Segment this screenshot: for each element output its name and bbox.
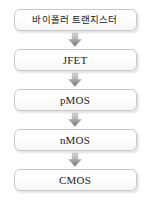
flow-node-label: 바이폴러 트랜지스터 — [32, 15, 117, 25]
flow-node-cmos[interactable]: CMOS — [14, 169, 137, 191]
flow-node-label: nMOS — [60, 135, 90, 146]
flow-node-pmos[interactable]: pMOS — [14, 89, 137, 111]
flow-connector-1 — [0, 31, 150, 49]
flow-node-bipolar-transistor[interactable]: 바이폴러 트랜지스터 — [14, 9, 137, 31]
flow-connector-3 — [0, 111, 150, 129]
flow-node-nmos[interactable]: nMOS — [14, 129, 137, 151]
arrow-down-icon — [67, 112, 83, 128]
flow-node-label: CMOS — [59, 175, 91, 186]
flow-node-label: JFET — [63, 55, 88, 66]
arrow-down-icon — [67, 32, 83, 48]
arrow-down-icon — [67, 72, 83, 88]
flow-node-label: pMOS — [60, 95, 90, 106]
flow-connector-2 — [0, 71, 150, 89]
flow-connector-4 — [0, 151, 150, 169]
flowchart-container: 바이폴러 트랜지스터 JFET — [0, 0, 150, 212]
arrow-down-icon — [67, 152, 83, 168]
flow-node-jfet[interactable]: JFET — [14, 49, 137, 71]
